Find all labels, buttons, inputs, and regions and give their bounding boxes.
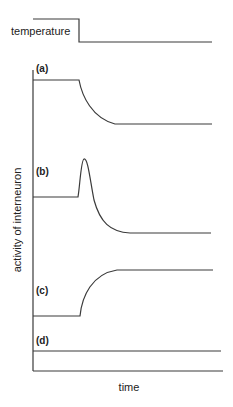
temperature-label: temperature <box>11 25 70 37</box>
panel-a-label: (a) <box>36 63 48 74</box>
panel-c-trace: (c) <box>33 270 213 316</box>
temperature-trace: temperature <box>11 19 212 42</box>
panel-d-trace: (d) <box>33 335 221 351</box>
y-axis-label: activity of interneuron <box>11 168 23 273</box>
panel-c-label: (c) <box>36 285 48 296</box>
panel-a-trace: (a) <box>33 63 212 124</box>
x-axis-label: time <box>119 381 140 393</box>
interneuron-activity-diagram: temperature activity of interneuron time… <box>0 0 233 407</box>
panel-d-label: (d) <box>36 335 49 346</box>
panel-b-label: (b) <box>36 166 49 177</box>
panel-b-trace: (b) <box>33 159 211 233</box>
